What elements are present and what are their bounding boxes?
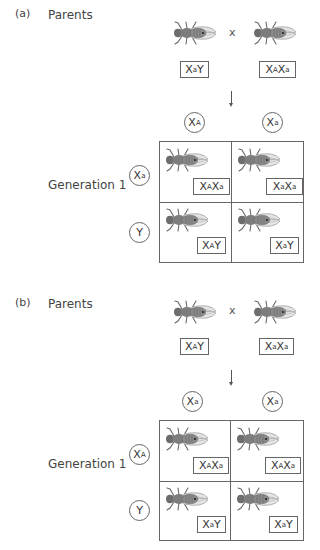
offspring-genotype-box: XAXa — [265, 457, 301, 474]
parents-label: Parents — [48, 297, 93, 311]
cross-symbol: x — [229, 26, 236, 39]
offspring-fly-icon — [235, 427, 281, 451]
offspring-genotype-box: XAXa — [193, 457, 229, 474]
offspring-fly-icon — [236, 148, 282, 172]
panel-label: (b) — [15, 296, 31, 309]
row-gamete-circle: Xa — [129, 165, 150, 186]
grid-divider — [159, 202, 304, 203]
offspring-fly-icon — [164, 208, 210, 232]
offspring-genotype-box: XaY — [270, 237, 299, 254]
row-gamete-circle: Y — [129, 222, 150, 243]
panel-label: (a) — [15, 7, 30, 20]
offspring-fly-icon — [164, 427, 210, 451]
arrowhead-icon — [229, 382, 233, 386]
offspring-fly-icon — [235, 487, 281, 511]
row-gamete-circle: Y — [129, 500, 150, 521]
offspring-fly-icon — [164, 487, 210, 511]
offspring-genotype-box: XAY — [197, 237, 226, 254]
generation-label: Generation 1 — [48, 457, 126, 471]
offspring-genotype-box: XaXa — [266, 178, 303, 195]
parent-fly-male-icon — [172, 21, 218, 45]
offspring-genotype-box: XAXa — [193, 178, 230, 195]
arrowhead-icon — [229, 103, 233, 107]
generation-label: Generation 1 — [48, 178, 126, 192]
parents-label: Parents — [48, 8, 93, 22]
offspring-genotype-box: XaY — [197, 516, 226, 533]
column-gamete-circle: Xa — [182, 391, 203, 412]
row-gamete-circle: XA — [129, 444, 150, 465]
column-gamete-circle: Xa — [262, 391, 283, 412]
offspring-fly-icon — [164, 148, 210, 172]
parent-fly-male-icon — [172, 300, 218, 324]
parent-genotype-box: XaY — [180, 61, 209, 78]
parent-genotype-box: XAY — [180, 338, 209, 355]
column-gamete-circle: Xa — [262, 112, 283, 133]
parent-genotype-box: XaXa — [259, 338, 294, 355]
parent-fly-female-icon — [252, 21, 298, 45]
parent-fly-female-icon — [252, 300, 298, 324]
column-gamete-circle: XA — [184, 112, 205, 133]
offspring-fly-icon — [236, 208, 282, 232]
grid-divider — [159, 481, 304, 482]
cross-symbol: x — [229, 304, 236, 317]
offspring-genotype-box: XaY — [269, 516, 298, 533]
parent-genotype-box: XAXa — [259, 61, 296, 78]
